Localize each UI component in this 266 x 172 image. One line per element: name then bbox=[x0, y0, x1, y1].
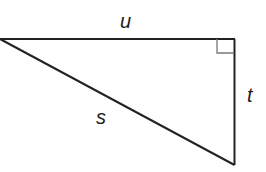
label-u: u bbox=[120, 10, 131, 32]
label-t: t bbox=[247, 84, 254, 106]
side-s-hypotenuse bbox=[0, 39, 235, 165]
triangle bbox=[0, 39, 235, 165]
right-angle-marker bbox=[217, 39, 234, 53]
label-s: s bbox=[96, 106, 106, 128]
triangle-diagram: u t s bbox=[0, 0, 266, 172]
